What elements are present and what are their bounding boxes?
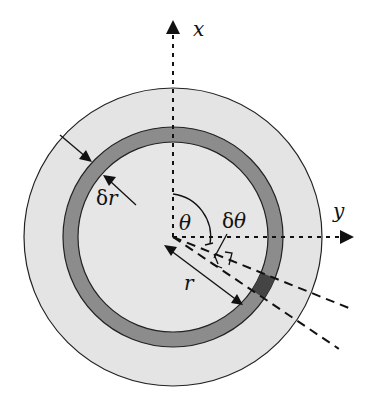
delta-theta-label: δθ [222, 209, 246, 233]
x-axis-arrowhead [166, 20, 180, 34]
x-axis-label: x [193, 17, 204, 41]
y-axis-label: y [332, 199, 345, 223]
y-axis-arrowhead [340, 230, 354, 244]
polar-element-diagram: x y θ δθ δr r [0, 0, 379, 413]
diagram-canvas: x y θ δθ δr r [0, 0, 379, 413]
theta-label: θ [179, 211, 191, 235]
delta-r-label: δr [96, 186, 119, 210]
radius-label: r [184, 271, 195, 295]
